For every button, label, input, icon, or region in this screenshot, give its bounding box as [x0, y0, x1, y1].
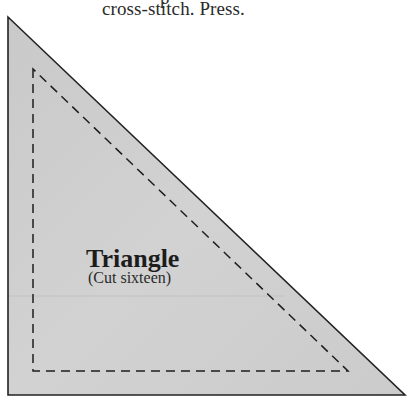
template-cut-count: (Cut sixteen)	[88, 270, 171, 286]
outer-cut-line	[8, 17, 405, 395]
triangle-template	[0, 0, 415, 400]
